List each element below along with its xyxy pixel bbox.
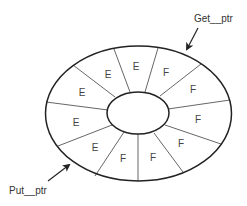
segment-label: E — [133, 61, 140, 72]
circular-buffer-diagram: E E E F F F F F F E E Get__ptr Put__ptr — [0, 0, 247, 206]
put-ptr-arrow-icon — [48, 165, 69, 181]
segment-label: F — [120, 153, 126, 164]
segment-label: E — [105, 69, 112, 80]
segment-label: F — [178, 138, 184, 149]
get-ptr-arrow-icon — [187, 28, 198, 49]
put-ptr-label: Put__ptr — [9, 185, 47, 196]
divider — [58, 125, 112, 146]
segment-label: F — [163, 67, 169, 78]
segment-label: E — [79, 87, 86, 98]
get-ptr-label: Get__ptr — [194, 13, 234, 24]
segment-label: F — [195, 114, 201, 125]
divider — [114, 49, 130, 92]
divider — [46, 102, 108, 110]
divider — [168, 100, 230, 109]
divider — [165, 125, 221, 144]
inner-ring — [107, 92, 169, 134]
divider — [145, 48, 158, 92]
segment-label: F — [190, 84, 196, 95]
segment-label: F — [150, 152, 156, 163]
segment-label: E — [73, 117, 80, 128]
segment-label: E — [92, 142, 99, 153]
